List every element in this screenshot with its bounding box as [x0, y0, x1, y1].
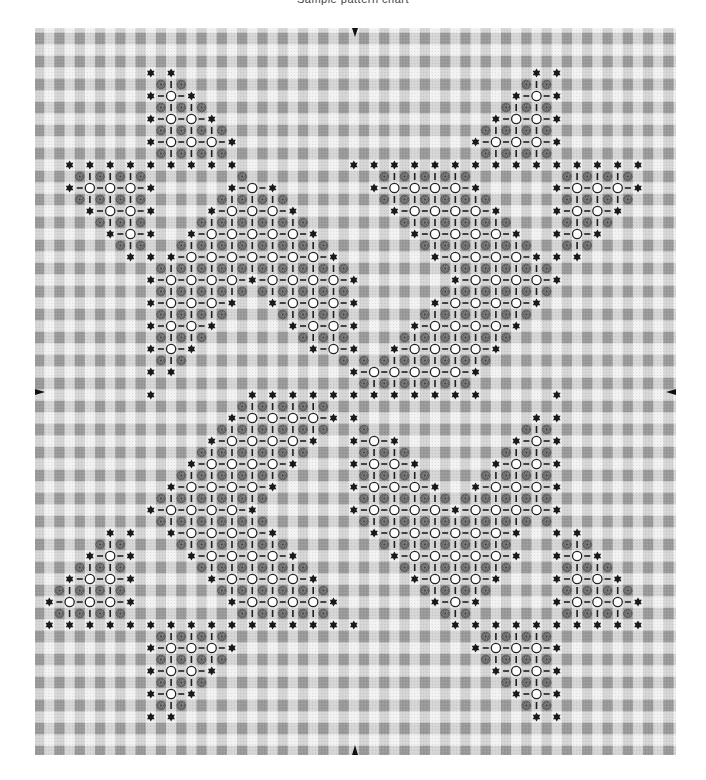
- rosette-stitch: [441, 540, 450, 549]
- circle-stitch: [106, 551, 115, 560]
- rosette-stitch: [319, 333, 328, 342]
- circle-stitch: [288, 252, 297, 261]
- circle-stitch: [451, 298, 460, 307]
- rosette-stitch: [441, 517, 450, 526]
- rosette-stitch: [502, 149, 511, 158]
- rosette-stitch: [502, 287, 511, 296]
- circle-stitch: [167, 643, 176, 652]
- circle-stitch: [187, 252, 196, 261]
- rosette-stitch: [177, 103, 186, 112]
- circle-stitch: [167, 321, 176, 330]
- rosette-stitch: [562, 172, 571, 181]
- rosette-stitch: [400, 471, 409, 480]
- rosette-stitch: [502, 517, 511, 526]
- rosette-stitch: [420, 172, 429, 181]
- rosette-stitch: [319, 425, 328, 434]
- circle-stitch: [593, 597, 602, 606]
- rosette-stitch: [238, 195, 247, 204]
- rosette-stitch: [481, 563, 490, 572]
- rosette-stitch: [441, 218, 450, 227]
- rosette-stitch: [177, 241, 186, 250]
- circle-stitch: [268, 459, 277, 468]
- rosette-stitch: [197, 241, 206, 250]
- rosette-stitch: [562, 540, 571, 549]
- rosette-stitch: [217, 425, 226, 434]
- rosette-stitch: [522, 471, 531, 480]
- circle-stitch: [207, 137, 216, 146]
- circle-stitch: [451, 574, 460, 583]
- rosette-stitch: [400, 195, 409, 204]
- circle-stitch: [167, 689, 176, 698]
- rosette-stitch: [299, 609, 308, 618]
- circle-stitch: [207, 459, 216, 468]
- circle-stitch: [167, 91, 176, 100]
- rosette-stitch: [522, 701, 531, 710]
- circle-stitch: [410, 482, 419, 491]
- rosette-stitch: [156, 701, 165, 710]
- rosette-stitch: [359, 494, 368, 503]
- rosette-stitch: [319, 609, 328, 618]
- rosette-stitch: [603, 218, 612, 227]
- circle-stitch: [187, 643, 196, 652]
- circle-stitch: [85, 574, 94, 583]
- circle-stitch: [390, 482, 399, 491]
- rosette-stitch: [400, 563, 409, 572]
- circle-stitch: [370, 367, 379, 376]
- rosette-stitch: [562, 241, 571, 250]
- circle-stitch: [471, 298, 480, 307]
- rosette-stitch: [623, 172, 632, 181]
- rosette-stitch: [562, 195, 571, 204]
- rosette-stitch: [156, 264, 165, 273]
- rosette-stitch: [380, 471, 389, 480]
- rosette-stitch: [380, 379, 389, 388]
- rosette-stitch: [441, 310, 450, 319]
- circle-stitch: [187, 137, 196, 146]
- circle-stitch: [288, 275, 297, 284]
- rosette-stitch: [197, 517, 206, 526]
- circle-stitch: [410, 344, 419, 353]
- rosette-stitch: [217, 218, 226, 227]
- rosette-stitch: [156, 149, 165, 158]
- circle-stitch: [227, 252, 236, 261]
- rosette-stitch: [583, 540, 592, 549]
- circle-stitch: [430, 183, 439, 192]
- rosette-stitch: [461, 264, 470, 273]
- rosette-stitch: [156, 333, 165, 342]
- rosette-stitch: [238, 563, 247, 572]
- rosette-stitch: [542, 494, 551, 503]
- rosette-stitch: [603, 172, 612, 181]
- rosette-stitch: [441, 586, 450, 595]
- rosette-stitch: [461, 379, 470, 388]
- circle-stitch: [370, 482, 379, 491]
- circle-stitch: [532, 482, 541, 491]
- rosette-stitch: [522, 310, 531, 319]
- rosette-stitch: [562, 609, 571, 618]
- circle-stitch: [207, 643, 216, 652]
- circle-stitch: [451, 321, 460, 330]
- rosette-stitch: [481, 586, 490, 595]
- circle-stitch: [573, 597, 582, 606]
- circle-stitch: [106, 597, 115, 606]
- rosette-stitch: [116, 195, 125, 204]
- rosette-stitch: [96, 563, 105, 572]
- rosette-stitch: [116, 540, 125, 549]
- circle-stitch: [207, 298, 216, 307]
- circle-stitch: [167, 505, 176, 514]
- circle-stitch: [573, 183, 582, 192]
- rosette-stitch: [461, 287, 470, 296]
- circle-stitch: [227, 528, 236, 537]
- rosette-stitch: [319, 264, 328, 273]
- rosette-stitch: [359, 471, 368, 480]
- rosette-stitch: [278, 287, 287, 296]
- rosette-stitch: [258, 540, 267, 549]
- rosette-stitch: [238, 287, 247, 296]
- circle-stitch: [248, 597, 257, 606]
- circle-stitch: [309, 597, 318, 606]
- rosette-stitch: [258, 241, 267, 250]
- circle-stitch: [410, 528, 419, 537]
- circle-stitch: [512, 643, 521, 652]
- rosette-stitch: [583, 195, 592, 204]
- circle-stitch: [187, 482, 196, 491]
- rosette-stitch: [177, 655, 186, 664]
- rosette-stitch: [299, 402, 308, 411]
